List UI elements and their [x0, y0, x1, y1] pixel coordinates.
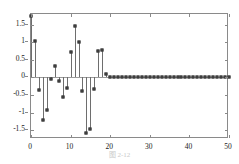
stem-marker: [89, 128, 92, 131]
x-axis-tick: [229, 14, 230, 17]
y-axis-tick: [225, 42, 228, 43]
stem-marker: [200, 76, 203, 79]
x-axis-tick: [110, 14, 111, 17]
y-axis-tick: [225, 113, 228, 114]
stem-marker: [164, 76, 167, 79]
x-axis-tick: [150, 135, 151, 138]
y-axis-tick-labels: 1.510.50-0.5-1-1.5: [0, 13, 28, 138]
stem-marker: [184, 76, 187, 79]
stem-marker: [160, 76, 163, 79]
stem-marker: [125, 76, 128, 79]
stem-marker: [77, 40, 80, 43]
y-axis-tick: [31, 60, 34, 61]
stem-marker: [208, 76, 211, 79]
stem-marker: [41, 118, 44, 121]
stem-marker: [156, 76, 159, 79]
x-axis-tick: [110, 135, 111, 138]
x-axis-tick: [150, 14, 151, 17]
y-axis-tick: [225, 77, 228, 78]
stem-marker: [192, 76, 195, 79]
stem-line: [102, 50, 103, 77]
x-axis-tick: [229, 135, 230, 138]
x-tick-label: 0: [28, 143, 32, 151]
stem-marker: [212, 76, 215, 79]
stem-marker: [196, 76, 199, 79]
stem-marker: [49, 78, 52, 81]
y-tick-mark: [25, 129, 28, 130]
x-axis-tick: [189, 135, 190, 138]
stem-marker: [69, 51, 72, 54]
stem-marker: [132, 76, 135, 79]
stem-marker: [53, 65, 56, 68]
y-tick-mark: [25, 41, 28, 42]
x-tick-label: 20: [105, 143, 113, 151]
stem-marker: [168, 76, 171, 79]
stem-marker: [45, 108, 48, 111]
y-tick-mark: [25, 112, 28, 113]
x-axis-tick: [189, 14, 190, 17]
stem-marker: [81, 90, 84, 93]
y-axis-tick: [225, 60, 228, 61]
stem-marker: [129, 76, 132, 79]
y-tick-mark: [25, 24, 28, 25]
stem-line: [79, 42, 80, 78]
stem-line: [75, 26, 76, 78]
stem-marker: [140, 76, 143, 79]
stem-marker: [109, 76, 112, 79]
x-axis-tick: [71, 14, 72, 17]
stem-line: [55, 66, 56, 77]
stem-plot-figure: 1.510.50-0.5-1-1.5 01020304050 图 2-12: [0, 0, 239, 164]
stem-marker: [136, 76, 139, 79]
x-tick-label: 10: [66, 143, 74, 151]
stem-marker: [216, 76, 219, 79]
x-tick-label: 50: [224, 143, 232, 151]
stem-marker: [97, 50, 100, 53]
stem-line: [43, 77, 44, 119]
y-axis-tick: [225, 130, 228, 131]
y-axis-tick: [31, 25, 34, 26]
y-axis-tick: [225, 95, 228, 96]
stem-marker: [101, 48, 104, 51]
stem-marker: [220, 76, 223, 79]
stem-line: [98, 51, 99, 77]
stem-line: [90, 77, 91, 129]
stem-marker: [180, 76, 183, 79]
stem-marker: [65, 87, 68, 90]
y-axis-tick: [31, 113, 34, 114]
y-tick-mark: [25, 59, 28, 60]
stem-line: [86, 77, 87, 132]
stem-marker: [176, 76, 179, 79]
stem-marker: [85, 131, 88, 134]
stem-line: [47, 77, 48, 109]
y-tick-label: -1.5: [13, 125, 25, 133]
stem-line: [63, 77, 64, 97]
stem-marker: [113, 76, 116, 79]
stem-marker: [144, 76, 147, 79]
stem-marker: [117, 76, 120, 79]
stem-marker: [152, 76, 155, 79]
y-axis-tick: [225, 25, 228, 26]
plot-area: [30, 13, 228, 138]
y-tick-mark: [25, 94, 28, 95]
stem-marker: [93, 87, 96, 90]
stem-line: [35, 41, 36, 77]
x-axis-tick: [71, 135, 72, 138]
stem-marker: [204, 76, 207, 79]
y-axis-tick: [31, 77, 34, 78]
stem-marker: [188, 76, 191, 79]
x-tick-label: 40: [185, 143, 193, 151]
stem-marker: [172, 76, 175, 79]
stem-marker: [57, 79, 60, 82]
y-axis-tick: [31, 130, 34, 131]
figure-caption: 图 2-12: [0, 151, 239, 160]
y-tick-mark: [25, 76, 28, 77]
stem-line: [71, 52, 72, 77]
stem-marker: [105, 72, 108, 75]
stem-marker: [73, 24, 76, 27]
stem-series: [31, 14, 227, 137]
x-axis-tick: [31, 135, 32, 138]
stem-marker: [37, 88, 40, 91]
x-tick-label: 30: [145, 143, 153, 151]
x-axis-tick: [31, 14, 32, 17]
y-tick-label: -0.5: [13, 90, 25, 98]
